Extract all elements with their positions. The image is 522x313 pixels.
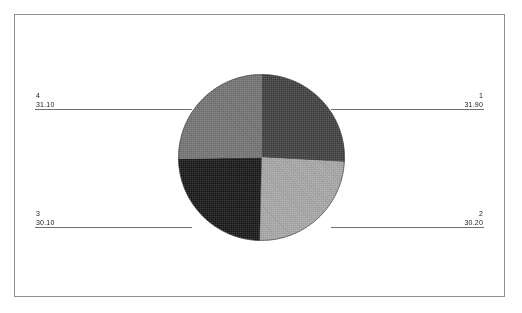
pie-slice-3: [179, 158, 262, 241]
callout-value-slice3: 30.10: [36, 218, 55, 228]
callout-label-slice1: 1 31.90: [464, 91, 483, 110]
leader-line-slice2: [331, 227, 484, 228]
callout-label-slice4: 4 31.10: [36, 91, 55, 110]
pie-slices: [179, 75, 345, 241]
callout-index-slice2: 2: [464, 209, 483, 218]
chart-screenshot: 4 31.10 1 31.90 3 30.10 2 30.20: [0, 0, 522, 313]
pie-slice-2: [260, 158, 345, 241]
callout-index-slice4: 4: [36, 91, 55, 100]
pie-slice-1: [262, 75, 345, 163]
callout-index-slice1: 1: [464, 91, 483, 100]
leader-line-slice1: [331, 109, 484, 110]
pie-svg: [178, 74, 345, 241]
leader-line-slice3: [35, 227, 192, 228]
leader-line-slice4: [35, 109, 192, 110]
callout-value-slice1: 31.90: [464, 100, 483, 110]
callout-label-slice3: 3 30.10: [36, 209, 55, 228]
callout-label-slice2: 2 30.20: [464, 209, 483, 228]
callout-value-slice4: 31.10: [36, 100, 55, 110]
callout-value-slice2: 30.20: [464, 218, 483, 228]
callout-index-slice3: 3: [36, 209, 55, 218]
pie-chart: [178, 74, 345, 241]
pie-slice-4: [179, 75, 262, 159]
